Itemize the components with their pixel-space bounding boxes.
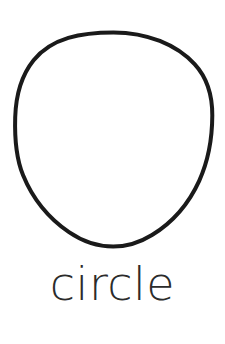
shape-illustration	[0, 0, 225, 262]
flashcard: circle	[0, 0, 225, 344]
circle-outline-icon	[0, 0, 225, 262]
circle-stroke	[15, 32, 212, 246]
shape-name-label: circle	[0, 258, 225, 310]
